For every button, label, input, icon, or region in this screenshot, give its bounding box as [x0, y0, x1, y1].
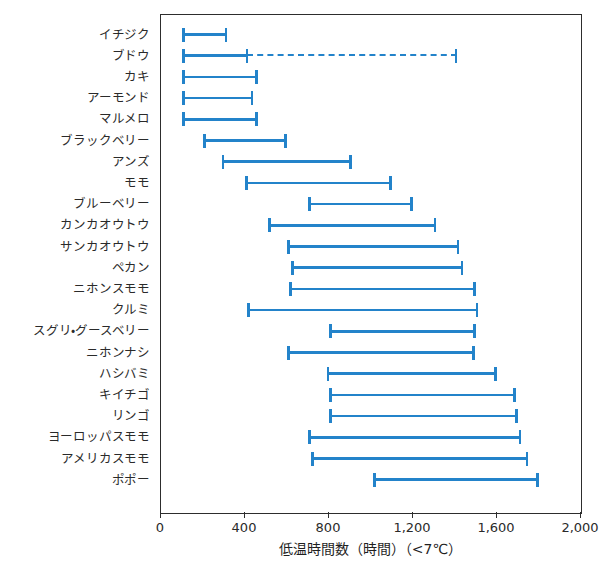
- range-line-solid: [329, 330, 476, 333]
- range-bar: [289, 282, 476, 296]
- range-line-solid: [287, 245, 459, 248]
- range-bar: [182, 49, 457, 63]
- range-cap-high: [255, 70, 258, 84]
- range-bar: [329, 409, 518, 423]
- range-bar: [222, 155, 352, 169]
- range-line-solid: [203, 139, 287, 142]
- category-label: ニホンナシ: [0, 345, 150, 358]
- range-bar: [287, 240, 459, 254]
- plot-area: [160, 14, 582, 514]
- range-bar: [182, 70, 258, 84]
- range-cap-low: [182, 70, 185, 84]
- range-cap-high: [536, 473, 539, 487]
- x-tick-label: 400: [232, 520, 257, 535]
- x-tick-label: 1,200: [393, 520, 430, 535]
- range-line-solid: [182, 97, 253, 100]
- range-cap-high: [225, 28, 228, 42]
- range-cap-low: [182, 91, 185, 105]
- range-line-solid: [182, 33, 227, 36]
- range-cap-high: [389, 176, 392, 190]
- category-label: クルミ: [0, 303, 150, 316]
- range-bar: [182, 91, 253, 105]
- category-label: ブルーベリー: [0, 197, 150, 210]
- category-label: ブドウ: [0, 48, 150, 61]
- range-bar: [182, 112, 258, 126]
- range-bar: [247, 303, 478, 317]
- range-cap-high: [473, 324, 476, 338]
- range-cap-low: [222, 155, 225, 169]
- range-bar: [308, 197, 413, 211]
- range-cap-high: [284, 134, 287, 148]
- range-bar: [373, 473, 539, 487]
- x-tick: [328, 512, 329, 518]
- range-line-solid: [373, 478, 539, 481]
- category-label: キイチゴ: [0, 387, 150, 400]
- range-bar: [268, 218, 436, 232]
- category-label: スグリ・グースベリー: [0, 324, 150, 337]
- category-label: ハシバミ: [0, 366, 150, 379]
- range-bar: [329, 324, 476, 338]
- range-cap-low: [329, 324, 332, 338]
- range-bar: [203, 134, 287, 148]
- x-tick-label: 1,600: [477, 520, 514, 535]
- category-axis: イチジクブドウカキアーモンドマルメロブラックベリーアンズモモブルーベリーカンカオ…: [0, 0, 156, 512]
- range-bar: [308, 430, 521, 444]
- category-label: カンカオウトウ: [0, 218, 150, 231]
- range-cap-high: [255, 112, 258, 126]
- range-line-solid: [311, 457, 528, 460]
- range-cap-low: [329, 409, 332, 423]
- category-label: ブラックベリー: [0, 133, 150, 146]
- range-line-solid: [308, 203, 413, 206]
- range-bar: [245, 176, 392, 190]
- range-cap-low: [289, 282, 292, 296]
- category-label: ヨーロッパスモモ: [0, 430, 150, 443]
- range-line-solid: [222, 160, 352, 163]
- range-line-solid: [182, 76, 258, 79]
- range-cap-high: [473, 282, 476, 296]
- x-tick-label: 2,000: [561, 520, 598, 535]
- range-cap-low: [308, 430, 311, 444]
- range-cap-high: [515, 409, 518, 423]
- range-cap-high: [410, 197, 413, 211]
- range-cap-high: [434, 218, 437, 232]
- category-label: マルメロ: [0, 112, 150, 125]
- x-tick-label: 0: [156, 520, 164, 535]
- x-tick: [244, 512, 245, 518]
- x-tick: [496, 512, 497, 518]
- range-cap-low: [182, 49, 185, 63]
- range-bar: [291, 261, 463, 275]
- range-line-solid: [327, 372, 497, 375]
- range-bar: [182, 28, 227, 42]
- x-tick-label: 800: [316, 520, 341, 535]
- range-line-solid: [289, 288, 476, 291]
- chill-hours-range-chart: イチジクブドウカキアーモンドマルメロブラックベリーアンズモモブルーベリーカンカオ…: [0, 0, 614, 576]
- x-axis: 低温時間数（時間）（<7℃） 04008001,2001,6002,000: [160, 512, 581, 576]
- range-cap-high: [251, 91, 254, 105]
- category-label: カキ: [0, 69, 150, 82]
- range-bar: [329, 388, 516, 402]
- range-cap-high: [494, 367, 497, 381]
- category-label: ペカン: [0, 260, 150, 273]
- range-cap-low: [182, 112, 185, 126]
- x-tick: [160, 512, 161, 518]
- x-tick: [412, 512, 413, 518]
- category-label: イチジク: [0, 27, 150, 40]
- range-cap-high: [513, 388, 516, 402]
- range-cap-low: [327, 367, 330, 381]
- category-label: サンカオウトウ: [0, 239, 150, 252]
- range-cap-low: [203, 134, 206, 148]
- range-cap-high: [349, 155, 352, 169]
- range-cap-low: [287, 240, 290, 254]
- range-line-solid: [182, 54, 247, 57]
- range-line-solid: [268, 224, 436, 227]
- range-bar: [327, 367, 497, 381]
- range-cap-low: [245, 176, 248, 190]
- x-axis-title: 低温時間数（時間）（<7℃）: [160, 540, 581, 558]
- range-cap-low: [182, 28, 185, 42]
- range-cap-low: [287, 346, 290, 360]
- category-label: アンズ: [0, 154, 150, 167]
- range-cap-low: [247, 303, 250, 317]
- range-cap-high: [519, 430, 522, 444]
- range-cap-high: [455, 49, 458, 63]
- range-cap-low: [291, 261, 294, 275]
